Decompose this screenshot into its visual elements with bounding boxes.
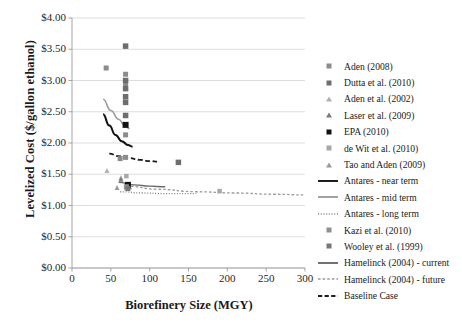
x-tick-label: 250 [246,272,286,284]
chart-legend: Aden (2008)Dutta et al. (2010)Aden et al… [318,58,462,304]
y-tick-label: $4.00 [16,12,66,23]
y-tick-label: $3.00 [16,75,66,86]
y-tick-label: $1.50 [16,168,66,179]
square-marker-icon [327,146,332,151]
line-sample-icon [318,177,338,185]
legend-item-label: Kazi et al. (2010) [344,225,411,236]
x-tick-label: 200 [207,272,247,284]
data-point [104,66,109,71]
data-point [124,174,128,179]
legend-item[interactable]: Hamelinck (2004) - current [318,255,462,271]
legend-item-label: Aden et al. (2002) [344,93,414,104]
legend-triangle-icon [318,108,340,122]
legend-item[interactable]: Aden (2008) [318,58,462,74]
line-sample-icon [318,275,338,283]
data-point [123,78,129,84]
x-tick-label: 150 [169,272,209,284]
x-tick-label: 50 [91,272,131,284]
legend-item[interactable]: de Wit et al. (2010) [318,140,462,156]
data-point [104,168,109,173]
data-point [123,122,129,128]
data-point [176,160,182,166]
triangle-marker-icon [326,162,332,167]
x-tick-label: 100 [130,272,170,284]
figure-caption [26,321,446,332]
legend-item-label: de Wit et al. (2010) [344,143,418,154]
x-tick-label: 0 [52,272,92,284]
square-marker-icon [327,228,332,233]
legend-item[interactable]: EPA (2010) [318,124,462,140]
legend-item-label: Hamelinck (2004) - future [344,274,445,285]
legend-item[interactable]: Hamelinck (2004) - future [318,271,462,287]
legend-line-dashed-fine-icon [318,272,340,286]
legend-line-dashed-icon [318,289,340,303]
y-tick-label: $0.50 [16,231,66,242]
x-axis-title: Biorefinery Size (MGY) [72,298,306,313]
data-point [115,185,120,190]
figure-container: Levelized Cost ($/gallon ethanol) Bioref… [0,0,462,332]
legend-square-icon [318,76,340,90]
legend-item-label: Antares - mid term [344,192,417,203]
legend-line-solid-icon [318,174,340,188]
legend-square-icon [318,223,340,237]
y-tick-label: $2.50 [16,106,66,117]
data-point [123,86,129,92]
line-sample-icon [318,259,338,267]
legend-item[interactable]: Tao and Aden (2009) [318,156,462,172]
legend-item-label: Laser et al. (2009) [344,110,414,121]
legend-item-label: Hamelinck (2004) - current [344,257,449,268]
data-point [123,43,129,49]
legend-line-solid-icon [318,190,340,204]
line-sample-icon [318,210,338,218]
data-point [123,132,128,137]
legend-square-icon [318,239,340,253]
triangle-marker-icon [326,113,332,118]
legend-line-solid-icon [318,256,340,270]
legend-item-label: Aden (2008) [344,61,393,72]
legend-square-icon [318,59,340,73]
trend-line [109,154,159,162]
square-marker-icon [327,64,332,69]
legend-item-label: Antares - long term [344,208,419,219]
legend-item[interactable]: Wooley et al. (1999) [318,238,462,254]
legend-item[interactable]: Laser et al. (2009) [318,107,462,123]
legend-item-label: Baseline Case [344,290,398,301]
legend-item[interactable]: Kazi et al. (2010) [318,222,462,238]
legend-item-label: Tao and Aden (2009) [344,159,425,170]
y-axis-title-wrap: Levelized Cost ($/gallon ethanol) [20,4,38,254]
legend-square-icon [318,125,340,139]
square-marker-icon [327,129,332,134]
legend-item-label: Antares - near term [344,175,418,186]
legend-square-icon [318,141,340,155]
legend-item[interactable]: Antares - mid term [318,189,462,205]
legend-line-dotted-icon [318,207,340,221]
line-sample-icon [318,292,338,300]
legend-item-label: Wooley et al. (1999) [344,241,423,252]
data-point [118,156,123,161]
data-point [217,189,222,194]
legend-item[interactable]: Antares - near term [318,173,462,189]
legend-item[interactable]: Dutta et al. (2010) [318,74,462,90]
data-point [123,113,129,119]
data-point [123,100,129,106]
triangle-marker-icon [326,96,332,101]
y-tick-label: $2.00 [16,137,66,148]
legend-item-label: Dutta et al. (2010) [344,77,414,88]
legend-item[interactable]: Antares - long term [318,206,462,222]
y-tick-label: $3.50 [16,43,66,54]
data-point [123,94,129,100]
square-marker-icon [327,80,332,85]
line-sample-icon [318,193,338,201]
y-axis-title: Levelized Cost ($/gallon ethanol) [23,40,37,218]
legend-item[interactable]: Baseline Case [318,287,462,303]
legend-item[interactable]: Aden et al. (2002) [318,91,462,107]
data-point [123,72,128,77]
y-tick-label: $1.00 [16,200,66,211]
legend-triangle-icon [318,158,340,172]
data-point [123,155,128,160]
square-marker-icon [327,244,332,249]
data-point [125,186,130,191]
legend-triangle-icon [318,92,340,106]
trend-line [120,192,196,194]
legend-item-label: EPA (2010) [344,126,389,137]
